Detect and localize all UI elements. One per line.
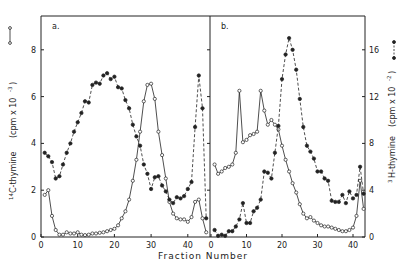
open-data-point (280, 144, 283, 147)
open-data-point (87, 233, 90, 236)
open-data-point (120, 217, 123, 220)
open-data-point (43, 193, 46, 196)
open-data-point (323, 225, 326, 228)
open-data-point (252, 132, 255, 135)
filled-data-point (102, 74, 105, 77)
open-data-point (288, 170, 291, 173)
open-data-point (146, 83, 149, 86)
filled-data-point (259, 198, 262, 201)
open-data-point (277, 128, 280, 131)
open-data-point (266, 123, 269, 126)
filled-data-point (98, 82, 101, 85)
open-data-point (183, 218, 186, 221)
filled-data-point (120, 87, 123, 90)
open-data-point (94, 232, 97, 235)
open-data-point (205, 231, 208, 234)
open-data-point (256, 130, 259, 133)
filled-data-point (105, 72, 108, 75)
open-data-point (139, 130, 142, 133)
open-data-point (135, 158, 138, 161)
open-data-point (302, 212, 305, 215)
open-data-point (102, 231, 105, 234)
filled-data-point (58, 175, 61, 178)
data-series (43, 36, 365, 237)
filled-data-point (61, 163, 64, 166)
open-data-point (273, 123, 276, 126)
open-data-point (117, 224, 120, 227)
filled-data-point (157, 175, 160, 178)
filled-data-point (287, 36, 290, 39)
x-tick-label: 20 (109, 241, 119, 250)
filled-data-point (80, 111, 83, 114)
open-circle-legend-icon (9, 27, 12, 45)
right-y-label-main: H-thymine (388, 136, 397, 178)
right-tick-label: 0 (369, 233, 374, 242)
filled-data-point (330, 199, 333, 202)
open-data-point (316, 221, 319, 224)
left-tick-label: 2 (31, 186, 36, 195)
x-tick-label: 10 (241, 241, 251, 250)
right-y-isotope-superscript: 3 (387, 179, 393, 183)
filled-data-point (291, 48, 294, 51)
right-y-label-close-paren: ) (388, 71, 397, 74)
filled-data-point (334, 200, 337, 203)
filled-data-point (323, 177, 326, 180)
filled-data-point (263, 170, 266, 173)
open-data-point (337, 228, 340, 231)
open-data-point (106, 230, 109, 233)
filled-data-point (127, 107, 130, 110)
open-data-point (201, 217, 204, 220)
open-data-point (161, 154, 164, 157)
open-data-point (47, 189, 50, 192)
filled-data-point (358, 165, 361, 168)
panel-a-label: a. (52, 22, 59, 31)
open-data-point (348, 228, 351, 231)
filled-data-point (355, 193, 358, 196)
filled-data-point (164, 190, 167, 193)
filled-data-point (131, 123, 134, 126)
filled-data-point (43, 151, 46, 154)
open-data-point (72, 232, 75, 235)
left-tick-label: 8 (31, 46, 36, 55)
left-y-label-close-paren: ) (9, 82, 18, 85)
open-data-point (153, 97, 156, 100)
open-data-point (263, 109, 266, 112)
x-tick-label: 0 (38, 241, 43, 250)
filled-circle-legend-icon (393, 41, 396, 60)
filled-data-point (234, 225, 237, 228)
open-data-point (249, 134, 252, 137)
open-data-point (295, 191, 298, 194)
filled-data-point (153, 176, 156, 179)
right-tick-label: 4 (369, 186, 374, 195)
filled-data-point (344, 201, 347, 204)
open-data-point (362, 207, 365, 210)
open-data-point (213, 163, 216, 166)
plot-frame (41, 16, 365, 237)
open-data-point (109, 228, 112, 231)
right-y-label-exponent: -2 (386, 76, 392, 81)
open-data-point (330, 226, 333, 229)
chart-canvas: 024680481216010203040010203040 a. b. Fra… (0, 0, 408, 273)
filled-data-point (182, 194, 185, 197)
filled-data-point (231, 230, 234, 233)
filled-data-point (220, 233, 223, 236)
left-y-label-main: C-thymine (9, 152, 18, 194)
b-14c-thymine-line (215, 91, 364, 231)
left-y-label-units: (cpm x 10 (9, 98, 18, 138)
filled-data-point (193, 125, 196, 128)
open-data-point (320, 224, 323, 227)
filled-data-point (109, 77, 112, 80)
open-data-point (113, 227, 116, 230)
open-data-point (65, 231, 68, 234)
filled-data-point (298, 97, 301, 100)
filled-data-point (72, 130, 75, 133)
filled-data-point (273, 151, 276, 154)
open-data-point (175, 217, 178, 220)
filled-data-point (76, 121, 79, 124)
filled-data-point (190, 180, 193, 183)
filled-data-point (224, 234, 227, 237)
open-data-point (58, 233, 61, 236)
a-3h-thymine-line (45, 73, 207, 218)
filled-data-point (280, 77, 283, 80)
filled-data-point (319, 170, 322, 173)
